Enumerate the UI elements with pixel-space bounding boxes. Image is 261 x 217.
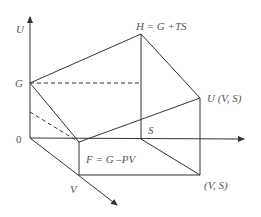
- g-point-label: G: [15, 77, 23, 89]
- edge-s-vs: [141, 139, 200, 175]
- s-point-label: S: [148, 124, 154, 136]
- v-axis-label: V: [70, 183, 78, 195]
- h-point-label: H = G +TS: [135, 20, 187, 32]
- thermodynamic-diagram: U G 0 H = G +TS U (V, S) S F = G –PV V (…: [0, 0, 261, 217]
- dashed-diagonal-to-f: [30, 112, 79, 142]
- f-point-label: F = G –PV: [85, 153, 137, 165]
- s-axis: [30, 138, 244, 139]
- u-axis-label: U: [16, 23, 25, 35]
- origin-label: 0: [16, 133, 22, 145]
- edge-g-h: [30, 34, 141, 83]
- edge-f-u: [79, 98, 200, 142]
- u-point-label: U (V, S): [207, 92, 242, 105]
- edge-g-f: [30, 83, 79, 142]
- vs-point-label: (V, S): [204, 179, 228, 192]
- edge-h-u: [141, 34, 200, 98]
